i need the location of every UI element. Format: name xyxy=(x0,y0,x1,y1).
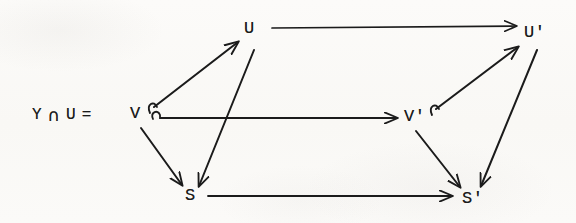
diagram-page: Y ∩ U = U U' V V' S S' xyxy=(0,0,576,223)
node-label-v: V xyxy=(130,105,141,122)
arrow-v-to-u xyxy=(154,42,238,107)
node-label-s-prime: S' xyxy=(462,190,483,207)
equation-right-term: U xyxy=(66,107,76,123)
arrow-u-to-uprime xyxy=(272,26,516,28)
arrow-uprime-to-sprime xyxy=(481,50,537,186)
arrow-v-to-s xyxy=(141,128,182,185)
node-label-u: U xyxy=(244,20,255,37)
equals-icon: = xyxy=(82,107,92,123)
node-label-v-prime: V' xyxy=(404,108,425,125)
node-label-u-prime: U' xyxy=(524,24,545,41)
arrow-vprime-to-uprime xyxy=(436,47,518,109)
equation-label: Y ∩ U = xyxy=(32,106,91,123)
node-label-s: S xyxy=(185,187,196,204)
arrow-vprime-to-sprime xyxy=(416,131,460,187)
arrow-v-to-vprime xyxy=(152,112,397,119)
intersection-icon: ∩ xyxy=(48,107,60,124)
equation-left-term: Y xyxy=(32,107,42,123)
